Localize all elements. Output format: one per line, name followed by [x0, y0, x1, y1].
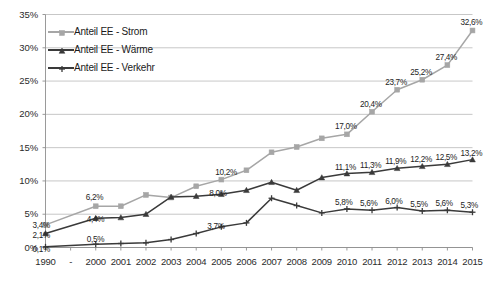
legend-marker-icon [48, 26, 74, 37]
y-axis-tick-label: 30% [4, 42, 38, 53]
data-point-marker-square [319, 136, 324, 141]
data-point-label: 20,4% [360, 100, 382, 109]
x-axis-tick-label: 2015 [456, 256, 484, 267]
data-point-label: 5,6% [360, 199, 377, 208]
legend-marker-icon [48, 44, 74, 55]
data-point-label: 27,4% [435, 53, 457, 62]
data-point-label: 13,2% [461, 149, 483, 158]
data-point-label: 12,5% [435, 153, 457, 162]
data-point-marker-plus [294, 203, 300, 209]
data-point-label: 2,1% [33, 231, 50, 240]
data-point-label: 6,0% [385, 197, 402, 206]
data-point-marker-square [294, 145, 299, 150]
data-point-marker-square [395, 87, 400, 92]
data-point-marker-square [219, 177, 224, 182]
data-point-label: 32,6% [461, 18, 483, 27]
y-axis-tick-label: 20% [4, 108, 38, 119]
data-point-label: 12,2% [410, 155, 432, 164]
data-point-marker-square [345, 132, 350, 137]
data-point-label: 4,4% [87, 215, 104, 224]
y-axis-tick-label: 10% [4, 175, 38, 186]
data-point-marker-plus [118, 241, 124, 247]
data-point-marker-square [370, 109, 375, 114]
legend-item-3[interactable]: Anteil EE - Verkehr [48, 60, 155, 75]
data-point-label: 23,7% [385, 78, 407, 87]
data-point-label: 5,3% [461, 201, 478, 210]
data-point-label: 11,3% [360, 161, 381, 170]
legend-item-label: Anteil EE - Strom [74, 26, 147, 37]
data-point-marker-square [445, 63, 450, 68]
data-point-label: 5,8% [335, 198, 352, 207]
data-point-marker-square [60, 31, 65, 36]
data-point-marker-square [470, 28, 475, 33]
legend-item-2[interactable]: Anteil EE - Wärme [48, 42, 155, 57]
y-axis-tick-label: 5% [4, 208, 38, 219]
legend-item-label: Anteil EE - Wärme [74, 44, 153, 55]
data-point-label: 3,4% [33, 221, 50, 230]
data-point-label: 10,2% [215, 168, 237, 177]
data-point-label: 8,0% [209, 189, 226, 198]
data-point-marker-plus [59, 66, 65, 72]
data-point-label: 3,7% [207, 222, 224, 231]
chart-legend: Anteil EE - StromAnteil EE - WärmeAnteil… [48, 24, 155, 75]
data-point-marker-square [420, 77, 425, 82]
y-axis-tick-label: 35% [4, 9, 38, 20]
data-point-marker-square [269, 150, 274, 155]
legend-item-1[interactable]: Anteil EE - Strom [48, 24, 155, 39]
data-point-marker-plus [168, 237, 174, 243]
data-point-marker-plus [193, 231, 199, 237]
data-point-label: 5,5% [410, 200, 427, 209]
data-point-marker-square [144, 193, 149, 198]
data-point-marker-square [194, 184, 199, 189]
data-point-marker-triangle [59, 48, 65, 53]
data-point-marker-plus [319, 210, 325, 216]
y-axis-tick-label: 25% [4, 75, 38, 86]
data-point-label: 6,2% [86, 193, 103, 202]
series-line-2 [46, 160, 473, 234]
data-point-label: 11,1% [335, 163, 356, 172]
data-point-marker-triangle [269, 179, 275, 184]
data-point-label: 5,6% [435, 199, 452, 208]
data-point-label: 0,1% [33, 245, 50, 254]
data-point-marker-square [118, 204, 123, 209]
data-point-marker-plus [143, 240, 149, 246]
legend-marker-icon [48, 62, 74, 73]
legend-item-label: Anteil EE - Verkehr [74, 62, 155, 73]
data-point-label: 25,2% [410, 68, 432, 77]
data-point-label: 0,5% [87, 235, 104, 244]
data-point-label: 17,0% [335, 122, 357, 131]
data-point-label: 11,9% [385, 157, 406, 166]
renewable-energy-share-line-chart: 0%5%10%15%20%25%30%35% 1990-200020012002… [0, 0, 484, 289]
data-point-marker-square [93, 204, 98, 209]
data-point-marker-square [244, 168, 249, 173]
y-axis-tick-label: 15% [4, 142, 38, 153]
